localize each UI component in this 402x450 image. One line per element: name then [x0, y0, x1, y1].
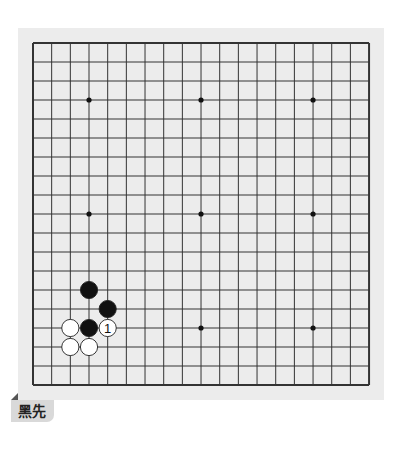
star-point [310, 211, 315, 216]
black-stone [99, 300, 116, 317]
white-stone [62, 338, 79, 355]
move-number-label: 1 [104, 321, 111, 336]
white-stone [62, 319, 79, 336]
star-point [310, 325, 315, 330]
white-stone: 1 [99, 319, 116, 336]
white-stone [80, 338, 97, 355]
black-stone [80, 281, 97, 298]
star-point [198, 211, 203, 216]
star-point [310, 97, 315, 102]
go-board[interactable]: 1 [0, 0, 402, 450]
caption-corner-marker [11, 393, 18, 400]
black-stone [80, 319, 97, 336]
caption-black-to-play: 黑先 [11, 400, 54, 422]
star-point [198, 97, 203, 102]
star-point [198, 325, 203, 330]
star-point [86, 211, 91, 216]
star-point [86, 97, 91, 102]
